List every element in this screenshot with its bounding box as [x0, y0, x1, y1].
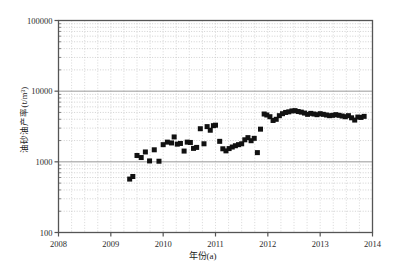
y-tick-label: 10000 — [31, 86, 52, 96]
data-point — [208, 128, 213, 133]
data-point — [156, 159, 161, 164]
data-point — [182, 149, 187, 154]
x-tick-label: 2008 — [50, 239, 67, 249]
data-point — [198, 126, 203, 131]
data-point — [147, 158, 152, 163]
data-point — [213, 123, 218, 128]
data-point — [217, 139, 222, 144]
data-point — [188, 140, 193, 145]
data-point — [362, 114, 367, 119]
x-axis-ticks: 2008200920102011201220132014 — [50, 233, 382, 249]
y-tick-label: 100 — [40, 228, 53, 238]
y-tick-label: 100000 — [27, 16, 53, 26]
x-tick-label: 2011 — [207, 239, 224, 249]
data-point — [178, 141, 183, 146]
x-axis-label: 年份(a) — [0, 249, 405, 262]
x-tick-label: 2014 — [364, 239, 382, 249]
data-point — [130, 174, 135, 179]
chart-plot-area: 1001000100001000002008200920102011201220… — [0, 0, 405, 273]
chart-figure: 1001000100001000002008200920102011201220… — [0, 0, 405, 273]
x-tick-label: 2013 — [312, 239, 329, 249]
data-point — [252, 136, 257, 141]
data-point — [139, 155, 144, 160]
data-point — [201, 141, 206, 146]
y-axis-ticks: 100100010000100000 — [27, 16, 61, 238]
x-tick-label: 2010 — [155, 239, 172, 249]
data-point — [152, 147, 157, 152]
data-point — [172, 134, 177, 139]
data-point — [258, 127, 263, 132]
data-point — [194, 145, 199, 150]
x-tick-label: 2009 — [102, 239, 119, 249]
x-tick-label: 2012 — [259, 239, 276, 249]
data-point — [255, 150, 260, 155]
y-tick-label: 1000 — [36, 157, 53, 167]
data-point — [143, 149, 148, 154]
data-point — [169, 140, 174, 145]
